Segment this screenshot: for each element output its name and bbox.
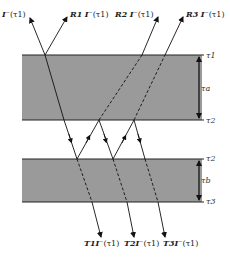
two-layer-radiation-diagram: τ1 τa τ2 τ2 τb τ3	[0, 0, 230, 258]
transmitted-label-1: T1I⁻(τ1)	[84, 238, 119, 248]
reflected-label-3: R3 I⁻(τ1)	[185, 9, 225, 19]
reflected-ray-3	[165, 17, 183, 55]
reflected-ray-1	[45, 17, 67, 55]
transmitted-label-2: T2I⁻(τ1)	[124, 238, 159, 248]
incident-label: I⁻(τ1)	[1, 9, 26, 19]
tau3-label: τ3	[206, 197, 216, 206]
tau2-label-lower: τ2	[206, 154, 216, 163]
ray-paths	[30, 17, 183, 237]
reflected-label-2: R2 I⁻(τ1)	[114, 9, 154, 19]
reflected-label-1: R1 I⁻(τ1)	[69, 9, 109, 19]
tau2-label-upper: τ2	[206, 116, 216, 125]
lower-layer	[22, 159, 204, 202]
transmitted-ray-2	[127, 202, 134, 237]
incident-ray	[30, 18, 45, 55]
tau-b-label: τb	[201, 176, 211, 185]
tau1-label: τ1	[206, 51, 216, 60]
tau-a-label: τa	[201, 84, 210, 93]
upper-layer	[22, 55, 204, 120]
transmitted-ray-1	[92, 202, 101, 237]
reflected-ray-2	[142, 17, 158, 55]
transmitted-label-3: T3I⁻(τ1)	[163, 238, 198, 248]
transmitted-ray-3	[158, 202, 165, 237]
